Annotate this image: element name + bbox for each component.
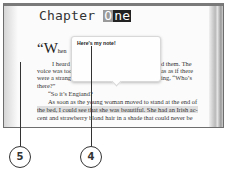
dropcap-rest: hen xyxy=(58,48,67,54)
callout-5-leader xyxy=(20,62,21,146)
text-line: ing, “Who’s xyxy=(161,74,192,81)
callout-4: 4 xyxy=(80,146,102,168)
chapter-title: Chapter One xyxy=(39,8,131,23)
text-line: d them. The xyxy=(161,60,192,67)
text-line: “So it’s Engiand? xyxy=(48,90,93,97)
text-line: cent and strawberry blond hair in a shad… xyxy=(37,114,193,121)
note-pointer xyxy=(112,77,122,87)
note-popup[interactable]: Here's my note! xyxy=(71,36,161,82)
dropcap-letter: “W xyxy=(37,40,58,56)
chapter-title-highlight-1[interactable]: O xyxy=(103,10,113,22)
chapter-title-text: Chapter xyxy=(39,8,103,23)
callout-4-leader xyxy=(91,46,92,146)
text-line: were a strang xyxy=(37,74,71,81)
text-line: As soon as the young woman moved to stan… xyxy=(48,98,197,105)
page-gutter xyxy=(209,6,223,127)
dropcap: “When xyxy=(37,40,67,57)
text-line: voice was too xyxy=(37,67,72,74)
callout-5: 5 xyxy=(9,146,31,168)
selected-text-line[interactable]: the bed, I could see that she was beauti… xyxy=(37,106,198,113)
page-left-margin[interactable] xyxy=(4,6,18,127)
note-text[interactable]: Here's my note! xyxy=(77,40,116,46)
book-page: Chapter One “When I heard t voice was to… xyxy=(3,3,224,128)
text-line: there?” xyxy=(37,82,55,89)
text-line: as as if there xyxy=(161,67,193,74)
chapter-title-highlight-2[interactable]: ne xyxy=(113,10,131,22)
